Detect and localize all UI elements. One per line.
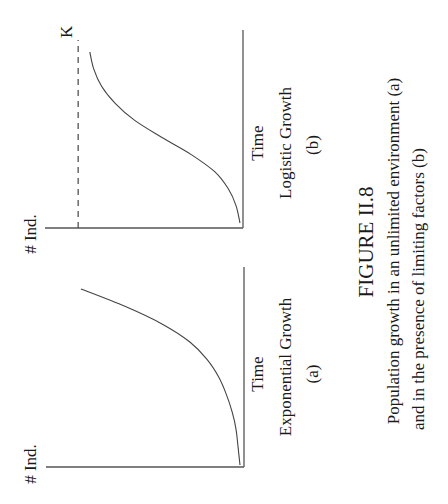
panel-b-logistic-curve bbox=[90, 52, 240, 223]
panel-a-title: Exponential Growth bbox=[276, 297, 295, 436]
panel-b-xlabel: Time bbox=[248, 125, 267, 160]
panel-b-title: Logistic Growth bbox=[276, 87, 295, 199]
panel-exponential: # Ind. Time Exponential Growth (a) bbox=[21, 267, 322, 484]
panel-a-exponential-curve bbox=[81, 289, 240, 465]
panel-a-label: (a) bbox=[303, 365, 322, 384]
caption-line-1: Population growth in an unlimited enviro… bbox=[384, 78, 403, 425]
panel-b-label: (b) bbox=[303, 135, 322, 155]
carrying-capacity-label: K bbox=[57, 25, 76, 38]
panel-a-xlabel: Time bbox=[248, 356, 267, 391]
caption-line-2: and in the presence of limiting factors … bbox=[409, 148, 428, 430]
panel-a-ylabel: # Ind. bbox=[21, 444, 40, 484]
figure-number: FIGURE II.8 bbox=[354, 187, 378, 298]
panel-logistic: K # Ind. Time Logistic Growth (b) bbox=[21, 25, 322, 254]
figure: # Ind. Time Exponential Growth (a) K # I… bbox=[0, 0, 448, 504]
panel-b-ylabel: # Ind. bbox=[21, 214, 40, 254]
rotated-figure-stage: # Ind. Time Exponential Growth (a) K # I… bbox=[0, 0, 448, 504]
figure-caption: FIGURE II.8 Population growth in an unli… bbox=[354, 78, 428, 430]
